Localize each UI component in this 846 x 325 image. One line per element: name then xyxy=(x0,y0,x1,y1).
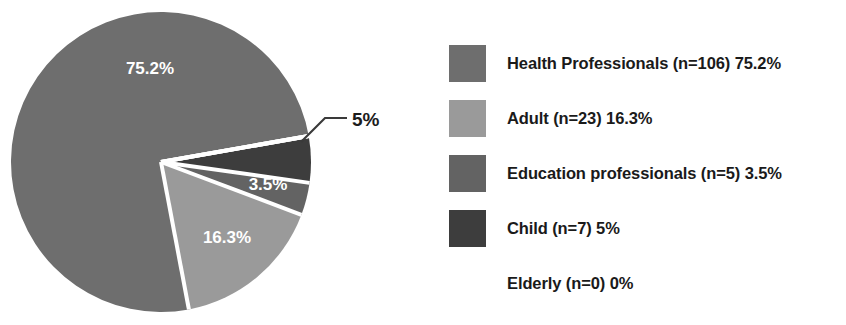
callout-label-5-percent: 5% xyxy=(352,109,380,130)
legend-item[interactable]: Adult (n=23) 16.3% xyxy=(449,91,846,146)
pie-slices xyxy=(11,12,311,312)
legend-swatch-icon xyxy=(449,210,486,247)
legend-item[interactable]: Health Professionals (n=106) 75.2% xyxy=(449,36,846,91)
legend-item-label: Adult (n=23) 16.3% xyxy=(507,109,652,128)
slice-value-label-adult: 16.3% xyxy=(203,228,251,247)
chart-legend: Health Professionals (n=106) 75.2%Adult … xyxy=(449,36,846,311)
legend-swatch-icon xyxy=(449,100,486,137)
legend-swatch-icon xyxy=(449,265,486,302)
legend-item-label: Health Professionals (n=106) 75.2% xyxy=(507,54,781,73)
legend-item-label: Child (n=7) 5% xyxy=(507,219,620,238)
pie-chart-svg: 75.2%16.3%3.5% 5% xyxy=(0,0,430,325)
pie-chart-figure: 75.2%16.3%3.5% 5% Health Professionals (… xyxy=(0,0,846,325)
legend-item-label: Elderly (n=0) 0% xyxy=(507,274,633,293)
child-slice-callout: 5% xyxy=(301,109,380,142)
legend-item-label: Education professionals (n=5) 3.5% xyxy=(507,164,782,183)
legend-swatch-icon xyxy=(449,155,486,192)
legend-item[interactable]: Education professionals (n=5) 3.5% xyxy=(449,146,846,201)
pie-chart-area: 75.2%16.3%3.5% 5% xyxy=(0,0,430,325)
legend-swatch-icon xyxy=(449,45,486,82)
legend-item[interactable]: Child (n=7) 5% xyxy=(449,201,846,256)
slice-value-label-health-professionals: 75.2% xyxy=(126,59,174,78)
slice-value-label-education-professionals: 3.5% xyxy=(249,175,288,194)
legend-item[interactable]: Elderly (n=0) 0% xyxy=(449,256,846,311)
